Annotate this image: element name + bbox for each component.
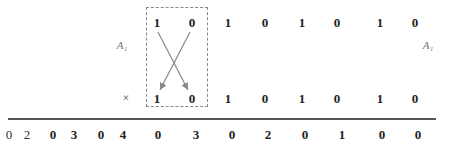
top-boxed-digit: 1 xyxy=(154,16,161,29)
result-digit: 2 xyxy=(265,128,272,141)
top-digit: 1 xyxy=(225,16,232,29)
result-digit: 1 xyxy=(339,128,346,141)
result-digit: 0 xyxy=(379,128,386,141)
result-digit: 3 xyxy=(71,128,78,141)
bottom-digit: 1 xyxy=(225,92,232,105)
bottom-digit: 0 xyxy=(262,92,269,105)
result-digit: 0 xyxy=(415,128,422,141)
top-digit: 1 xyxy=(377,16,384,29)
result-digit: 2 xyxy=(24,128,31,141)
top-boxed-digit: 0 xyxy=(189,16,196,29)
result-digit: 0 xyxy=(98,128,105,141)
bottom-digit: 0 xyxy=(412,92,419,105)
multiply-sign: × xyxy=(123,92,130,104)
result-digit: 0 xyxy=(229,128,236,141)
result-digit: 3 xyxy=(193,128,200,141)
result-digit: 0 xyxy=(155,128,162,141)
bottom-digit: 0 xyxy=(334,92,341,105)
result-digit: 0 xyxy=(50,128,57,141)
top-digit: 0 xyxy=(334,16,341,29)
bottom-digit: 1 xyxy=(377,92,384,105)
bottom-boxed-digit: 0 xyxy=(189,92,196,105)
top-digit: 1 xyxy=(299,16,306,29)
top-digit: 0 xyxy=(412,16,419,29)
top-digit: 0 xyxy=(262,16,269,29)
result-rule xyxy=(8,118,436,120)
result-digit: 4 xyxy=(120,128,127,141)
bottom-digit: 1 xyxy=(299,92,306,105)
result-digit: 0 xyxy=(302,128,309,141)
bottom-boxed-digit: 1 xyxy=(154,92,161,105)
result-digit: 0 xyxy=(6,128,13,141)
